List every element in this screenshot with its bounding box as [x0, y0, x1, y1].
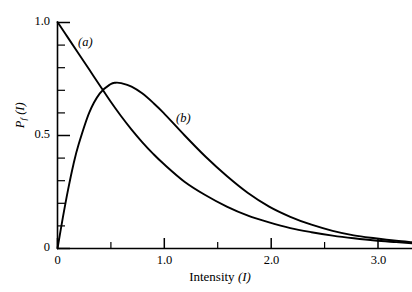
x-tick-label-2.0: 2.0 [256, 254, 287, 267]
x-axis-minor-ticks [111, 242, 325, 249]
curve-annotation-a: (a) [78, 36, 93, 49]
y-axis-argument: (I) [13, 102, 27, 115]
y-axis-title: Pf (I) [14, 102, 29, 128]
x-tick-label-3.0: 3.0 [363, 254, 394, 267]
curve-b-path [58, 83, 412, 249]
x-tick-label-0: 0 [43, 254, 72, 267]
axis-lines [57, 22, 412, 249]
y-axis-symbol: P [13, 121, 27, 129]
curve-a-path [58, 22, 412, 243]
y-tick-label-0: 0 [18, 241, 50, 254]
y-tick-label-0.5: 0.5 [18, 128, 50, 141]
x-tick-label-1.0: 1.0 [149, 254, 180, 267]
x-axis-title-symbol: (I) [238, 269, 251, 284]
figure-container: 1.0 0.5 0 0 1.0 2.0 3.0 Pf (I) Intensity… [0, 0, 412, 292]
y-tick-label-1.0: 1.0 [18, 15, 50, 28]
chart-plot-area [0, 0, 412, 292]
y-axis-subscript: f [18, 118, 28, 121]
curve-annotation-b: (b) [176, 112, 191, 125]
x-axis-title: Intensity (I) [140, 270, 300, 283]
x-axis-title-word: Intensity [189, 269, 235, 284]
